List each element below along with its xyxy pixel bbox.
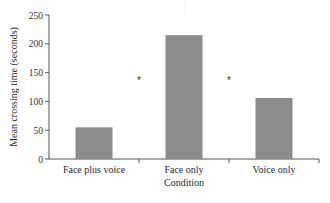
y-tick-label: 100 bbox=[29, 97, 44, 107]
y-axis-title: Mean crossing time (seconds) bbox=[8, 27, 20, 147]
y-tick-label: 250 bbox=[29, 11, 44, 21]
significance-asterisk: * bbox=[137, 75, 141, 86]
y-tick-label: 50 bbox=[34, 126, 44, 136]
y-tick-label: 150 bbox=[29, 68, 44, 78]
bar-chart: Mean crossing time (seconds) 05010015020… bbox=[0, 0, 330, 203]
bar-voice-only bbox=[256, 98, 293, 159]
y-tick-label: 200 bbox=[29, 39, 44, 49]
x-axis-title: Condition bbox=[164, 177, 204, 188]
significance-asterisk: * bbox=[227, 75, 231, 86]
x-axis: Face plus voiceFace onlyVoice only bbox=[49, 159, 319, 175]
bars bbox=[76, 35, 293, 159]
bar-face-plus-voice bbox=[76, 127, 113, 159]
x-category-label: Face only bbox=[164, 164, 203, 175]
y-axis: 050100150200250 bbox=[29, 11, 49, 165]
x-category-label: Voice only bbox=[253, 164, 296, 175]
bar-face-only bbox=[166, 35, 203, 159]
y-tick-label: 0 bbox=[38, 155, 43, 165]
x-category-label: Face plus voice bbox=[63, 164, 126, 175]
